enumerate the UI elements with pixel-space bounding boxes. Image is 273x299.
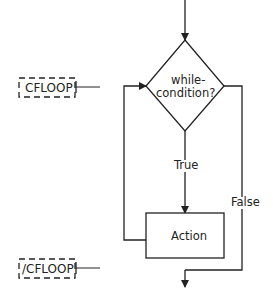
action-label: Action: [171, 231, 207, 243]
cfloop-close-tag-label: /CFLOOP: [22, 263, 74, 275]
loop-back-arrow: [124, 86, 146, 240]
true-label: True: [174, 160, 198, 172]
false-label: False: [231, 197, 260, 209]
decision-label-line1: while-: [171, 75, 205, 87]
cfloop-open-tag-label: CFLOOP: [25, 82, 73, 94]
flowchart-canvas: [0, 0, 273, 299]
decision-label-line2: condition?: [156, 88, 215, 100]
